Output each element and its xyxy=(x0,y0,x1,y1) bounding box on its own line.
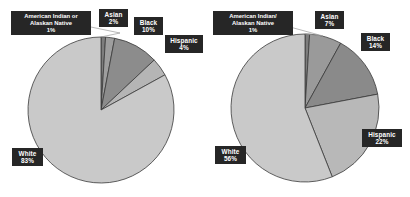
left-label-asian: Asian 2% xyxy=(99,9,128,27)
label-name-line1: American Indian/ xyxy=(216,13,290,20)
right-label-white: White 56% xyxy=(215,146,246,164)
left-label-white: White 83% xyxy=(12,148,43,166)
leader-line-american-indian xyxy=(86,26,120,37)
label-name: Asian xyxy=(318,13,341,21)
label-percent: 83% xyxy=(15,157,40,165)
right-label-american-indian: American Indian/ Alaskan Native 1% xyxy=(213,11,293,35)
label-name: Black xyxy=(364,35,387,43)
left-label-hispanic: Hispanic 4% xyxy=(165,35,203,53)
label-name: Hispanic xyxy=(365,131,399,139)
left-chart-panel: American Indian or Alaskan Native 1% Asi… xyxy=(0,0,205,197)
pie-chart-figure: American Indian or Alaskan Native 1% Asi… xyxy=(0,0,410,197)
right-label-asian: Asian 7% xyxy=(315,11,344,29)
label-percent: 7% xyxy=(318,20,341,28)
label-name: Black xyxy=(137,19,160,27)
label-percent: 10% xyxy=(137,26,160,34)
label-percent: 4% xyxy=(168,44,200,52)
right-label-hispanic: Hispanic 22% xyxy=(362,129,402,147)
label-name-line2: Alaskan Native xyxy=(216,20,290,27)
label-name: Hispanic xyxy=(168,37,200,45)
left-label-american-indian: American Indian or Alaskan Native 1% xyxy=(11,11,91,35)
label-percent: 1% xyxy=(14,27,88,34)
label-percent: 1% xyxy=(216,27,290,34)
label-percent: 14% xyxy=(364,42,387,50)
label-percent: 22% xyxy=(365,138,399,146)
label-name: White xyxy=(218,148,243,156)
right-chart-panel: American Indian/ Alaskan Native 1% Asian… xyxy=(205,0,410,197)
label-name-line2: Alaskan Native xyxy=(14,20,88,27)
label-name: Asian xyxy=(102,11,125,19)
left-label-black: Black 10% xyxy=(134,17,163,35)
label-percent: 56% xyxy=(218,155,243,163)
right-label-black: Black 14% xyxy=(361,33,390,51)
label-name-line1: American Indian or xyxy=(14,13,88,20)
label-percent: 2% xyxy=(102,18,125,26)
label-name: White xyxy=(15,150,40,158)
